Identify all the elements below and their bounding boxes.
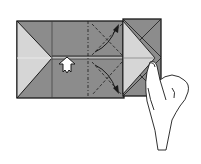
hand-icon (146, 62, 189, 151)
origami-diagram (0, 0, 201, 164)
